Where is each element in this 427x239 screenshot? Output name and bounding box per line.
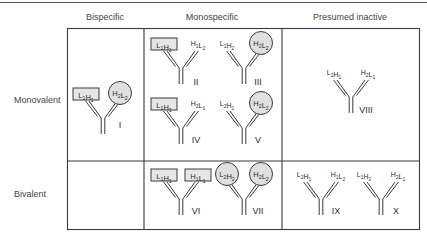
numeral-iv: IV: [192, 135, 201, 145]
fab-left-vi: L1H1: [151, 169, 177, 184]
antibody-ii: L1H1H1L2II: [151, 38, 205, 87]
fab-right-vi: H1L1: [185, 169, 211, 184]
numeral-viii: VIII: [359, 105, 373, 115]
fab-left-vii: L2H2: [216, 163, 239, 186]
antibody-iv: L1H1H2L1IV: [151, 98, 205, 145]
svg-text:H1L2: H1L2: [331, 171, 346, 182]
antibody-v: L2H1H2L2V: [220, 92, 273, 146]
fab-right-v: H2L2: [250, 92, 273, 115]
numeral-ix: IX: [332, 206, 341, 216]
fab-right-ix: H1L2: [331, 171, 346, 182]
fab-left-ix: L2H1: [297, 171, 312, 182]
fab-right-i: H2L2: [109, 82, 132, 105]
svg-text:H1L2: H1L2: [191, 40, 206, 51]
fab-left-iii: L1H2: [220, 40, 235, 51]
antibody-vi: L1H1H1L1VI: [151, 169, 211, 216]
fab-left-viii: L2H1: [327, 69, 342, 80]
numeral-ii: II: [193, 77, 198, 87]
svg-text:H2L1: H2L1: [191, 100, 206, 111]
fab-left-v: L2H1: [220, 100, 235, 111]
svg-text:L1H2: L1H2: [220, 40, 235, 51]
fab-right-x: H2L1: [391, 171, 406, 182]
fab-right-iv: H2L1: [191, 100, 206, 111]
antibody-ix: L2H1H1L2IX: [297, 171, 346, 216]
antibody-vii: L2H2H2L2VII: [216, 163, 273, 217]
svg-text:L2H1: L2H1: [220, 100, 235, 111]
numeral-x: X: [393, 206, 399, 216]
numeral-iii: III: [254, 77, 262, 87]
svg-text:H2L1: H2L1: [391, 171, 406, 182]
numeral-v: V: [255, 135, 261, 145]
antibody-iii: L1H2H2L2III: [220, 32, 273, 88]
fab-right-viii: H2L1: [361, 69, 376, 80]
numeral-vii: VII: [252, 206, 263, 216]
svg-text:H2L1: H2L1: [361, 69, 376, 80]
antibody-layer: L1H1H2L2IL1H1H1L2IIL1H2H2L2IIIL1H1H2L1IV…: [73, 32, 405, 217]
fab-right-vii: H2L2: [250, 163, 273, 186]
fab-left-iv: L1H1: [151, 98, 177, 113]
antibody-x: L1H2H2L1X: [357, 171, 406, 216]
numeral-i: I: [119, 120, 122, 130]
numeral-vi: VI: [192, 206, 201, 216]
fab-left-i: L1H1: [73, 88, 99, 103]
svg-text:L1H2: L1H2: [357, 171, 372, 182]
antibody-classification-grid: L1H1H2L2IL1H1H1L2IIL1H2H2L2IIIL1H1H2L1IV…: [0, 0, 427, 239]
fab-left-ii: L1H1: [151, 38, 177, 53]
svg-text:L2H1: L2H1: [297, 171, 312, 182]
antibody-viii: L2H1H2L1VIII: [327, 69, 376, 115]
svg-text:L2H1: L2H1: [327, 69, 342, 80]
fab-right-iii: H2L2: [250, 32, 273, 55]
fab-left-x: L1H2: [357, 171, 372, 182]
fab-right-ii: H1L2: [191, 40, 206, 51]
antibody-i: L1H1H2L2I: [73, 82, 132, 135]
